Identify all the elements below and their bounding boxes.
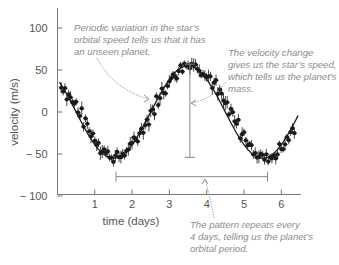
x-tick-label: 1 xyxy=(92,198,98,210)
data-point xyxy=(175,76,179,80)
data-point xyxy=(63,86,67,90)
y-ticks: 100500− 50− 100 xyxy=(20,22,63,202)
x-tick-label: 6 xyxy=(278,198,284,210)
data-point xyxy=(236,118,240,122)
data-point xyxy=(225,100,229,104)
x-tick-label: 2 xyxy=(129,198,135,210)
x-ticks: 123456 xyxy=(92,190,285,211)
radial-velocity-chart: 100500− 50− 100 123456 velocity (m/s) ti… xyxy=(0,0,339,265)
data-point xyxy=(82,125,86,129)
data-point xyxy=(242,130,246,134)
y-tick-label: 100 xyxy=(29,22,47,34)
annotation-amplitude: The velocity change gives us the star’s … xyxy=(228,47,339,94)
data-point xyxy=(154,94,158,98)
y-axis-title: velocity (m/s) xyxy=(8,78,20,146)
y-tick-label: 0 xyxy=(41,106,47,118)
x-tick-label: 4 xyxy=(204,198,210,210)
data-point xyxy=(177,69,181,73)
data-point xyxy=(136,139,140,143)
data-point xyxy=(287,138,291,142)
arrow-periodic xyxy=(97,58,148,99)
data-point xyxy=(275,152,279,156)
data-point xyxy=(158,96,162,100)
data-point xyxy=(214,78,218,82)
data-point xyxy=(249,143,253,147)
data-point xyxy=(164,91,168,95)
data-point xyxy=(147,122,151,126)
data-point xyxy=(264,152,268,156)
data-point xyxy=(106,149,110,153)
data-point xyxy=(80,106,84,110)
annotation-periodic: Periodic variation in the star’s orbital… xyxy=(74,22,208,57)
annotation-period: The pattern repeats every 4 days, tellin… xyxy=(190,219,316,254)
data-point xyxy=(180,70,184,74)
data-point xyxy=(231,110,235,114)
y-tick-label: 50 xyxy=(35,64,47,76)
data-point xyxy=(85,122,89,126)
x-tick-label: 3 xyxy=(166,198,172,210)
x-axis-title: time (days) xyxy=(103,215,160,227)
data-point xyxy=(91,131,95,135)
data-point xyxy=(292,131,296,135)
data-point xyxy=(141,131,145,135)
velocity-range-bar xyxy=(185,64,195,157)
data-point xyxy=(152,112,156,116)
period-bar xyxy=(116,172,267,182)
data-point xyxy=(283,142,287,146)
data-point xyxy=(74,100,78,104)
data-point xyxy=(96,141,100,145)
x-tick-label: 5 xyxy=(241,198,247,210)
y-tick-label: − 100 xyxy=(20,190,48,202)
y-tick-label: − 50 xyxy=(26,148,48,160)
data-point xyxy=(208,74,212,78)
